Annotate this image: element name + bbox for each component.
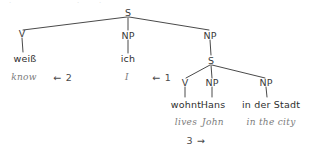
gloss-john: John	[202, 117, 224, 127]
node-v-matrix: V	[19, 28, 26, 39]
node-s-embedded: S	[208, 55, 214, 66]
node-np-locative: NP	[259, 77, 272, 88]
node-np-embedded-subject: NP	[205, 77, 218, 88]
node-np-clausal: NP	[203, 30, 216, 41]
terminal-in-der-stadt: in der Stadt	[242, 99, 300, 110]
syntax-tree-figure: · · ·	[0, 0, 323, 152]
terminal-wohnt: wohnt	[171, 99, 201, 110]
edge-v-to-weiss	[22, 38, 23, 52]
gloss-know: know	[11, 72, 37, 82]
movement-marker-one: ← 1	[153, 72, 172, 83]
terminal-hans: Hans	[201, 99, 226, 110]
edge-root-to-np-clausal	[129, 17, 209, 30]
edge-np-clausal-to-s	[210, 40, 211, 55]
terminal-ich: ich	[121, 53, 135, 64]
node-np-subject: NP	[121, 30, 134, 41]
gloss-lives: lives	[175, 117, 197, 127]
edge-root-to-v	[23, 17, 127, 30]
node-root-s: S	[125, 7, 131, 18]
edge-np-to-in-der-stadt	[266, 87, 267, 97]
edge-s-to-np-locative	[212, 65, 265, 78]
node-v-embedded: V	[182, 77, 189, 88]
movement-marker-three: 3 →	[187, 135, 206, 146]
gloss-in-the-city: in the city	[246, 117, 295, 127]
terminal-weiss: weiß	[13, 53, 36, 64]
movement-marker-two: ← 2	[54, 72, 73, 83]
gloss-i: I	[125, 72, 129, 82]
